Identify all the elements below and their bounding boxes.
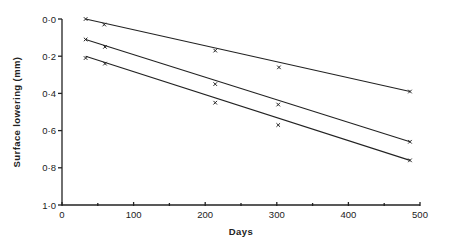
- x-marker-icon: [277, 66, 281, 70]
- x-tick-label: 300: [269, 209, 285, 220]
- x-tick-label: 400: [340, 209, 356, 220]
- chart: 0·00·20·40·60·81·0 0100200300400500 Days…: [0, 0, 450, 248]
- y-tick-label: 0·0: [42, 14, 56, 25]
- fit-lines: [86, 19, 410, 160]
- x-marker-icon: [276, 123, 280, 127]
- x-tick-label: 100: [126, 209, 142, 220]
- y-tick-label: 1·0: [42, 200, 56, 211]
- x-marker-icon: [213, 82, 217, 86]
- x-tick-label: 0: [59, 209, 64, 220]
- x-tick-label: 500: [412, 209, 428, 220]
- y-tick-label: 0·2: [42, 51, 56, 62]
- x-marker-icon: [84, 56, 88, 60]
- x-axis-title: Days: [229, 226, 253, 237]
- y-tick-label: 0·8: [42, 162, 56, 173]
- y-tick-label: 0·4: [42, 88, 56, 99]
- y-axis-title: Surface lowering (mm): [11, 57, 22, 168]
- x-marker-icon: [213, 101, 217, 105]
- fit-line-series-3: [86, 56, 410, 160]
- y-tick-label: 0·6: [42, 125, 56, 136]
- x-tick-label: 200: [197, 209, 213, 220]
- data-markers: [84, 17, 412, 162]
- y-axis: 0·00·20·40·60·81·0: [42, 14, 62, 211]
- x-marker-icon: [213, 49, 217, 53]
- x-marker-icon: [276, 103, 280, 107]
- x-axis: 0100200300400500: [59, 202, 428, 220]
